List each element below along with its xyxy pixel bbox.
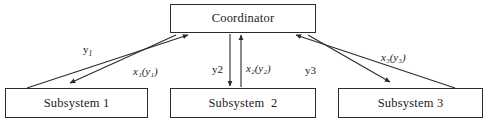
node-subsystem-1-label: Subsystem 1	[44, 96, 110, 111]
edge-label-x2: x₂(y₂)	[246, 63, 271, 74]
edge-label-y2: y2	[212, 64, 223, 75]
node-subsystem-1[interactable]: Subsystem 1	[5, 88, 148, 118]
edge-y1-sub1-to-coordinator	[27, 35, 188, 88]
edge-label-y1-sub: 1	[89, 49, 93, 58]
node-coordinator[interactable]: Coordinator	[170, 4, 316, 33]
edge-x3-coordinator-to-sub3	[308, 35, 390, 82]
node-coordinator-label: Coordinator	[212, 11, 275, 26]
node-subsystem-3[interactable]: Subsystem 3	[338, 88, 483, 118]
node-subsystem-3-label: Subsystem 3	[378, 96, 444, 111]
caption-strip	[0, 121, 489, 129]
edge-label-y1: y1	[83, 44, 92, 58]
node-subsystem-2[interactable]: Subsystem 2	[170, 88, 316, 118]
edge-label-x1: x₁(y₁)	[133, 66, 158, 77]
edge-y3-sub3-to-coordinator	[296, 35, 455, 88]
edge-label-y3: y3	[305, 65, 316, 76]
edge-label-x3: x₃(y₃)	[381, 52, 406, 63]
node-subsystem-2-label: Subsystem 2	[208, 96, 277, 111]
